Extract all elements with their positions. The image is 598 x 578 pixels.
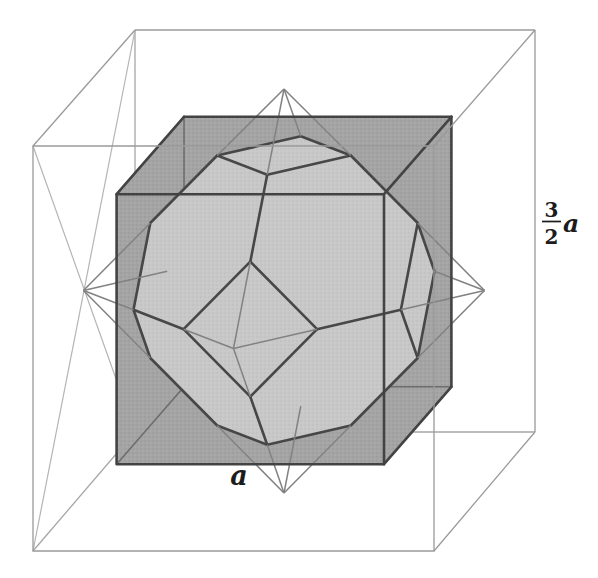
geometry-figure: 3 2 a a bbox=[0, 0, 598, 578]
outer-cube-top-left-depth-edge bbox=[33, 30, 135, 146]
figure-page: 3 2 a a bbox=[0, 0, 598, 578]
outer-cube-top-right-depth-edge bbox=[434, 30, 535, 146]
outer-edge-length-label: 3 2 a bbox=[542, 198, 579, 249]
fraction-denominator: 2 bbox=[545, 225, 559, 249]
outer-cube-bottom-right-depth-edge bbox=[434, 432, 535, 551]
inner-edge-length-label: a bbox=[230, 460, 248, 491]
fraction-numerator: 3 bbox=[545, 198, 559, 222]
outer-edge-variable: a bbox=[563, 209, 579, 238]
